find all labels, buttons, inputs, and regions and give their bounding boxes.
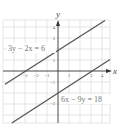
- x-axis-label: x: [112, 66, 117, 76]
- tick-y-3: 3: [53, 36, 56, 41]
- tick-x-3: 3: [90, 73, 93, 78]
- tick-x-neg3: −3: [23, 73, 29, 78]
- tick-y-neg3: −3: [50, 101, 56, 106]
- tick-x-1: 1: [68, 73, 70, 78]
- tick-x-4: 4: [101, 73, 104, 78]
- tick-y-4: 4: [53, 25, 56, 30]
- tick-x-neg1: −1: [45, 73, 50, 78]
- x-axis-arrow-icon: [106, 69, 112, 73]
- y-axis-arrow-icon: [56, 20, 60, 26]
- line-6x-9y-18: [12, 60, 110, 124]
- tick-y-1: 1: [53, 58, 55, 63]
- y-axis-label: y: [55, 9, 60, 19]
- equation-label-1: 3y − 2x = 6: [8, 44, 45, 53]
- grid: [3, 20, 110, 123]
- coordinate-plane: −3 −2 −1 1 3 4 4 3 1 −1 −3 x y 3y − 2x =…: [0, 0, 127, 133]
- equation-label-2: 6x − 9y = 18: [61, 95, 102, 104]
- tick-y-neg1: −1: [50, 80, 55, 85]
- tick-x-neg2: −2: [34, 73, 39, 78]
